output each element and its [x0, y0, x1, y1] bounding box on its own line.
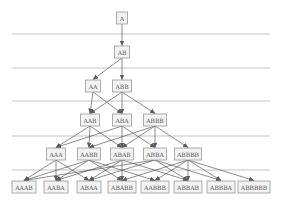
- node-aaba: AABA: [44, 181, 68, 193]
- node-label: ABBB: [145, 117, 164, 124]
- node-label: ABAA: [79, 184, 98, 191]
- edge-arrow-aab-to-aaa: [56, 126, 90, 148]
- node-label: AAAB: [14, 184, 33, 191]
- node-ab: AB: [115, 46, 130, 58]
- node-label: AABB: [79, 151, 98, 158]
- node-a: A: [117, 12, 128, 24]
- node-abaa: ABAA: [77, 181, 101, 193]
- node-label: ABBA: [145, 151, 164, 158]
- node-abba: ABBA: [144, 148, 167, 160]
- node-abbbb: ABBBB: [175, 148, 202, 160]
- node-label: AAB: [82, 117, 97, 124]
- node-label: ABAB: [112, 151, 131, 158]
- node-abab: ABAB: [111, 148, 134, 160]
- node-aab: AAB: [81, 114, 100, 126]
- node-aaa: AAA: [47, 148, 66, 160]
- node-label: ABBBBB: [240, 184, 268, 191]
- node-aaab: AAAB: [12, 181, 36, 193]
- node-label: AAA: [49, 151, 64, 158]
- node-label: ABBBB: [176, 151, 200, 158]
- node-label: ABBAB: [176, 184, 199, 191]
- node-aa: AA: [86, 80, 101, 92]
- node-label: ABA: [114, 117, 129, 124]
- node-label: ABB: [114, 83, 129, 90]
- node-abbbbb: ABBBBB: [238, 181, 270, 193]
- node-abbba: ABBBA: [207, 181, 235, 193]
- edge-arrow-abb-to-abbb: [122, 92, 155, 114]
- node-abbab: ABBAB: [174, 181, 202, 193]
- node-label: ABABB: [110, 184, 133, 191]
- node-label: AABBB: [143, 184, 166, 191]
- node-ababb: ABABB: [108, 181, 136, 193]
- derivation-diagram: AABAAABBAABABAABBBAAAAABBABABABBAABBBBAA…: [0, 0, 281, 205]
- node-label: ABBBA: [209, 184, 233, 191]
- node-abbb: ABBB: [144, 114, 167, 126]
- node-label: AB: [117, 49, 127, 56]
- edge-arrow-ab-to-aa: [93, 58, 122, 80]
- node-aabbb: AABBB: [141, 181, 169, 193]
- node-aabb: AABB: [78, 148, 101, 160]
- edge-arrow-aa-to-aab: [90, 92, 93, 114]
- node-label: AA: [88, 83, 98, 90]
- edge-arrow-abbb-to-abbbb: [155, 126, 188, 148]
- node-label: A: [119, 15, 125, 22]
- node-label: AABA: [46, 184, 65, 191]
- node-abb: ABB: [113, 80, 132, 92]
- edge-arrow-aab-to-abab: [90, 126, 122, 148]
- node-aba: ABA: [113, 114, 132, 126]
